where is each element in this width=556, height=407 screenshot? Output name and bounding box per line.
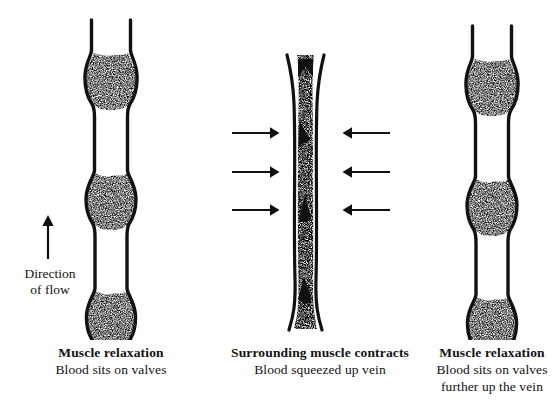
compression-arrow-left-3 — [232, 204, 280, 216]
caption-middle-title: Surrounding muscle contracts — [208, 344, 432, 361]
compression-arrow-left-2 — [232, 166, 280, 178]
caption-middle: Surrounding muscle contracts Blood squee… — [208, 344, 432, 378]
flow-label-line-2: of flow — [2, 282, 98, 298]
caption-right-line-1: Blood sits on valves — [407, 361, 556, 378]
caption-left-line-1: Blood sits on valves — [26, 361, 196, 378]
flow-direction-arrow — [42, 215, 53, 259]
compression-arrow-right-2 — [343, 166, 391, 178]
compression-arrow-right-1 — [343, 127, 391, 139]
vein-middle-compressed — [287, 55, 324, 330]
vein-valve-diagram: Direction of flow Muscle relaxation Bloo… — [0, 0, 556, 407]
compression-arrow-right-3 — [343, 204, 391, 216]
caption-right: Muscle relaxation Blood sits on valves f… — [407, 344, 556, 395]
caption-middle-line-1: Blood squeezed up vein — [208, 361, 432, 378]
caption-right-title: Muscle relaxation — [407, 344, 556, 361]
caption-left: Muscle relaxation Blood sits on valves — [26, 344, 196, 378]
compression-arrow-left-1 — [232, 127, 280, 139]
caption-right-line-2: further up the vein — [407, 378, 556, 395]
flow-label-line-1: Direction — [2, 266, 98, 282]
vein-right-relaxed — [466, 26, 518, 340]
caption-left-title: Muscle relaxation — [26, 344, 196, 361]
flow-direction-label: Direction of flow — [2, 266, 98, 299]
